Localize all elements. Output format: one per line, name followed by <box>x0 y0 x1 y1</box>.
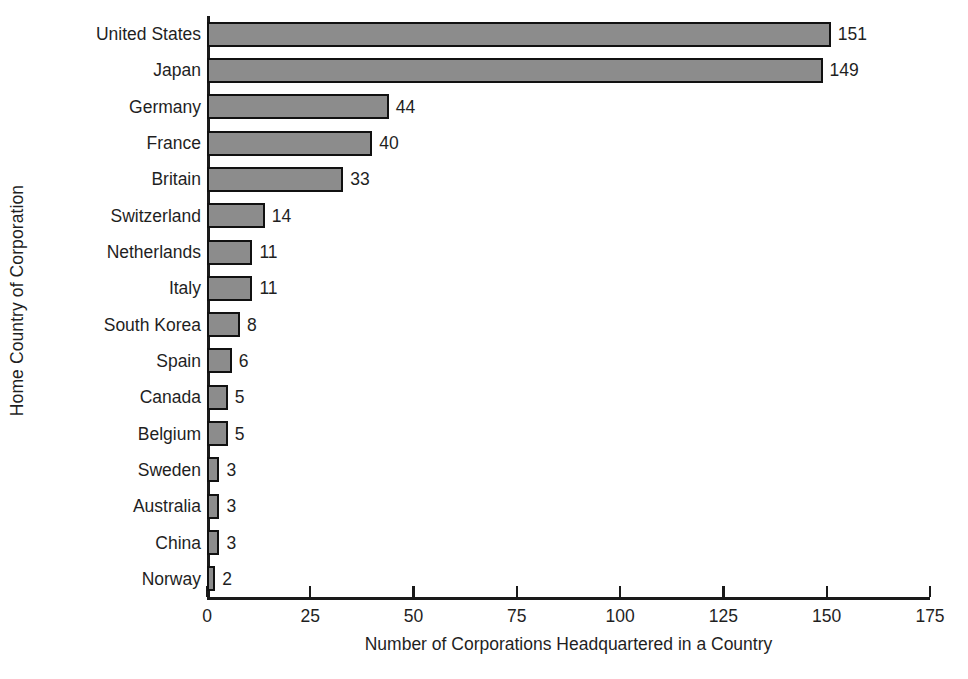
bar <box>207 530 219 555</box>
bar-value-label: 33 <box>350 170 369 188</box>
x-axis-tick-label: 175 <box>915 606 944 627</box>
category-label: Canada <box>140 388 201 406</box>
bar <box>207 494 219 519</box>
category-label: Sweden <box>138 461 201 479</box>
x-axis-tick-label: 50 <box>404 606 423 627</box>
bar-value-label: 40 <box>379 134 398 152</box>
y-axis-title: Home Country of Corporation <box>0 0 36 600</box>
category-label: Australia <box>133 497 201 515</box>
x-axis-tick <box>619 586 621 597</box>
x-axis-tick-label: 100 <box>606 606 635 627</box>
x-axis-title: Number of Corporations Headquartered in … <box>207 634 930 655</box>
bar-value-label: 5 <box>235 388 245 406</box>
bar-value-label: 3 <box>226 461 236 479</box>
bar-value-label: 14 <box>272 207 291 225</box>
category-label-column: United StatesJapanGermanyFranceBritainSw… <box>40 16 205 597</box>
x-axis-line <box>207 597 930 600</box>
chart-page: Home Country of Corporation United State… <box>0 0 968 679</box>
x-axis-tick <box>516 586 518 597</box>
category-label: Spain <box>156 352 201 370</box>
x-axis-tick-label: 125 <box>709 606 738 627</box>
bar <box>207 421 228 446</box>
bar-value-label: 6 <box>239 352 249 370</box>
bar <box>207 131 372 156</box>
plot-area: 0255075100125150175151149444033141111865… <box>207 16 930 597</box>
x-axis-tick <box>826 586 828 597</box>
category-label: Britain <box>151 170 201 188</box>
bar <box>207 167 343 192</box>
category-label: Japan <box>153 61 201 79</box>
bar <box>207 94 389 119</box>
bar-value-label: 151 <box>838 25 867 43</box>
bar-value-label: 2 <box>222 570 232 588</box>
bar-value-label: 11 <box>259 243 277 261</box>
category-label: Netherlands <box>107 243 201 261</box>
bar-value-label: 3 <box>226 497 236 515</box>
category-label: France <box>147 134 201 152</box>
x-axis-tick-label: 150 <box>812 606 841 627</box>
bar <box>207 348 232 373</box>
bar <box>207 22 831 47</box>
bar <box>207 457 219 482</box>
bar-value-label: 5 <box>235 425 245 443</box>
category-label: Germany <box>129 98 201 116</box>
x-axis-tick <box>929 586 931 597</box>
y-axis-title-text: Home Country of Corporation <box>8 184 29 415</box>
x-axis-tick-label: 25 <box>301 606 320 627</box>
bar <box>207 240 252 265</box>
bar <box>207 203 265 228</box>
category-label: China <box>155 534 201 552</box>
bar <box>207 385 228 410</box>
x-axis-tick-label: 0 <box>202 606 212 627</box>
bar-value-label: 149 <box>830 61 859 79</box>
bar <box>207 312 240 337</box>
bar-value-label: 3 <box>226 534 236 552</box>
bar-value-label: 8 <box>247 316 257 334</box>
x-axis-tick <box>722 586 724 597</box>
category-label: Belgium <box>138 425 201 443</box>
category-label: Italy <box>169 279 201 297</box>
bar <box>207 58 823 83</box>
category-label: Switzerland <box>111 207 201 225</box>
x-axis-tick <box>412 586 414 597</box>
bar-value-label: 44 <box>396 98 415 116</box>
category-label: United States <box>96 25 201 43</box>
category-label: South Korea <box>104 316 201 334</box>
x-axis-tick <box>309 586 311 597</box>
bar-value-label: 11 <box>259 279 277 297</box>
category-label: Norway <box>142 570 201 588</box>
bar <box>207 566 215 591</box>
bar <box>207 276 252 301</box>
x-axis-tick-label: 75 <box>507 606 526 627</box>
